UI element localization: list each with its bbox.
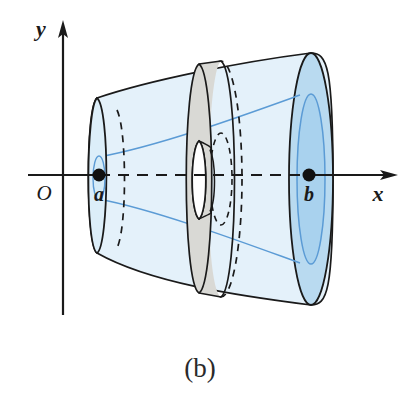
figure-caption: (b) bbox=[184, 353, 215, 383]
origin-label: O bbox=[36, 181, 51, 205]
point-a-marker bbox=[93, 169, 106, 182]
washer-method-figure: y x O a b (b) bbox=[0, 0, 409, 395]
point-b-marker bbox=[303, 169, 316, 182]
point-b-label: b bbox=[304, 183, 314, 205]
y-axis-label: y bbox=[33, 16, 46, 41]
washer-hole-front bbox=[192, 141, 206, 219]
x-axis-label: x bbox=[372, 181, 384, 206]
point-a-label: a bbox=[94, 183, 104, 205]
figure-canvas: y x O a b (b) bbox=[0, 0, 409, 395]
